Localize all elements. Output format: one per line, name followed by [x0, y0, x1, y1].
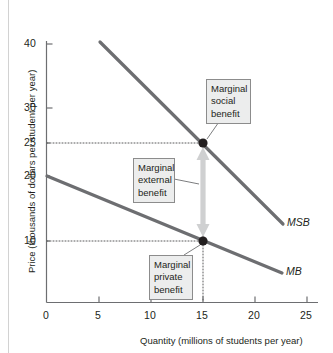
curve-label-msb: MSB	[287, 216, 310, 228]
callout-private-line-3: benefit	[154, 284, 188, 296]
x-tick-label-15: 15	[196, 309, 208, 321]
x-tick-label-0: 0	[43, 309, 49, 321]
callout-social-line-3: benefit	[211, 108, 246, 120]
callout-private-line-1: Marginal	[154, 259, 188, 271]
callout-external-line-1: Marginal	[138, 162, 170, 174]
x-tick-label-20: 20	[248, 309, 260, 321]
callout-marginal-social-benefit: Marginal social benefit	[206, 79, 251, 124]
curve-msb	[100, 42, 283, 224]
figure-container: 40 30 25 20 10 0 5 10 15 20 25 Price (th…	[0, 0, 333, 353]
reference-lines	[47, 143, 202, 241]
point-marginal-social-benefit	[198, 138, 207, 147]
callout-external-line-3: benefit	[138, 187, 170, 199]
x-axis-title: Quantity (millions of students per year)	[140, 335, 303, 346]
leader-line-private	[184, 245, 200, 255]
x-tick-label-10: 10	[144, 309, 156, 321]
point-marginal-private-benefit	[198, 236, 207, 245]
callout-marginal-private-benefit: Marginal private benefit	[149, 255, 193, 300]
y-tick-label-40: 40	[24, 37, 36, 49]
leader-line-external	[174, 179, 199, 184]
x-tick-label-5: 5	[95, 309, 101, 321]
callout-social-line-2: social	[211, 95, 246, 107]
marginal-external-benefit-arrow	[197, 147, 210, 237]
curve-label-mb: MB	[286, 265, 302, 277]
callout-private-line-2: private	[154, 271, 188, 283]
x-tick-label-25: 25	[300, 309, 312, 321]
callout-external-line-2: external	[138, 174, 170, 186]
callout-marginal-external-benefit: Marginal external benefit	[133, 158, 175, 203]
y-axis-title: Price (thousands of dollars per student …	[26, 70, 37, 273]
callout-social-line-1: Marginal	[211, 83, 246, 95]
arrow-shaft-and-heads	[197, 147, 210, 237]
